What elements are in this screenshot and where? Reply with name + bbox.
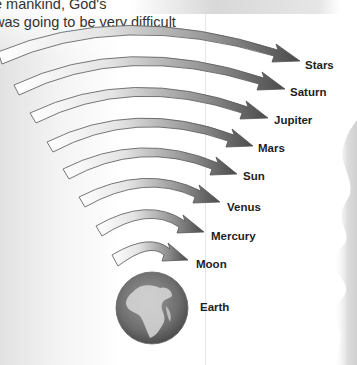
arrow-mars (47, 118, 253, 152)
globe-icon (116, 272, 188, 344)
label-saturn: Saturn (290, 86, 326, 98)
label-earth: Earth (200, 301, 229, 313)
arrow-sun (63, 148, 237, 179)
label-jupiter: Jupiter (274, 114, 312, 126)
arrow-moon (112, 242, 188, 266)
arrow-venus (79, 178, 220, 207)
arrow-jupiter (30, 87, 268, 123)
label-mercury: Mercury (211, 230, 256, 242)
celestial-spheres-diagram (0, 0, 357, 365)
label-mars: Mars (258, 142, 285, 154)
label-venus: Venus (227, 201, 261, 213)
label-sun: Sun (243, 170, 265, 182)
arrow-mercury (96, 210, 204, 236)
label-stars: Stars (305, 59, 334, 71)
label-moon: Moon (196, 258, 227, 270)
